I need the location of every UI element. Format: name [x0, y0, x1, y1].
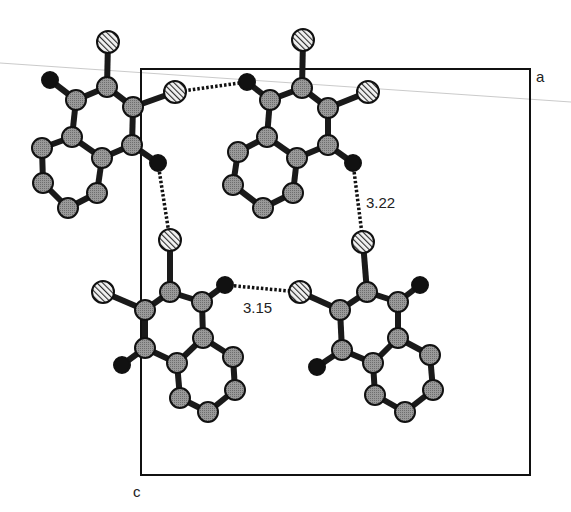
mol-bottom-right-hydrogen-atom	[309, 359, 325, 375]
mol-top-left-carbon-atom	[33, 173, 53, 193]
mol-bottom-left-carbon-atom	[223, 347, 243, 367]
mol-bottom-right-carbon-atom	[395, 402, 415, 422]
mol-top-left-carbon-atom	[62, 127, 82, 147]
axis-label-c: c	[133, 483, 141, 500]
mol-bottom-right-carbon-atom	[388, 292, 408, 312]
axis-label-a: a	[536, 68, 545, 85]
mol-top-right-carbon-atom	[287, 148, 307, 168]
mol-bottom-right-carbon-atom	[363, 353, 383, 373]
mol-bottom-left-hydrogen-atom	[114, 357, 130, 373]
contact-label-3-15: 3.15	[243, 299, 272, 316]
mol-top-left-hydrogen-atom	[150, 155, 166, 171]
mol-top-left-chlorine-atom	[164, 81, 186, 103]
mol-top-right-hydrogen-atom	[239, 74, 255, 90]
mol-bottom-left-carbon-atom	[225, 380, 245, 400]
mol-top-right-carbon-atom	[318, 135, 338, 155]
mol-top-left-carbon-atom	[87, 183, 107, 203]
mol-bottom-left-carbon-atom	[193, 328, 213, 348]
mol-bottom-right-chlorine-atom	[289, 281, 311, 303]
mol-top-right-carbon-atom	[283, 183, 303, 203]
mol-bottom-left-chlorine-atom	[92, 281, 114, 303]
mol-top-left-carbon-atom	[97, 77, 117, 97]
mol-bottom-left-carbon-atom	[135, 300, 155, 320]
mol-bottom-left-carbon-atom	[167, 353, 187, 373]
atoms-layer	[32, 29, 443, 422]
mol-bottom-left-carbon-atom	[198, 402, 218, 422]
mol-top-left-carbon-atom	[92, 148, 112, 168]
mol-top-left-carbon-atom	[122, 135, 142, 155]
mol-top-left-chlorine-atom	[97, 31, 119, 53]
mol-bottom-right-chlorine-atom	[352, 231, 374, 253]
mol-bottom-left-carbon-atom	[170, 388, 190, 408]
mol-bottom-right-carbon-atom	[365, 385, 385, 405]
mol-bottom-left-carbon-atom	[135, 338, 155, 358]
mol-bottom-right-carbon-atom	[388, 328, 408, 348]
mol-bottom-right-carbon-atom	[330, 300, 350, 320]
mol-bottom-right-hydrogen-atom	[412, 277, 428, 293]
mol-bottom-left-hydrogen-atom	[217, 277, 233, 293]
crystal-packing-diagram: a c 3.22 3.15	[0, 0, 571, 512]
mol-top-right-carbon-atom	[228, 142, 248, 162]
mol-bottom-right-carbon-atom	[420, 345, 440, 365]
mol-bottom-left-carbon-atom	[192, 292, 212, 312]
mol-top-right-carbon-atom	[292, 78, 312, 98]
mol-top-right-carbon-atom	[257, 127, 277, 147]
mol-top-right-chlorine-atom	[357, 81, 379, 103]
mol-bottom-left-carbon-atom	[160, 282, 180, 302]
mol-bottom-left-chlorine-atom	[159, 229, 181, 251]
mol-top-left-carbon-atom	[58, 198, 78, 218]
mol-top-right-carbon-atom	[253, 198, 273, 218]
mol-top-left-carbon-atom	[123, 97, 143, 117]
mol-top-right-carbon-atom	[260, 90, 280, 110]
contact-label-3-22: 3.22	[366, 194, 395, 211]
mol-bottom-right-carbon-atom	[332, 340, 352, 360]
mol-bottom-right-carbon-atom	[423, 380, 443, 400]
mol-bottom-right-carbon-atom	[357, 282, 377, 302]
mol-top-right-chlorine-atom	[292, 29, 314, 51]
mol-top-left-carbon-atom	[66, 90, 86, 110]
mol-top-right-hydrogen-atom	[345, 155, 361, 171]
mol-top-left-hydrogen-atom	[42, 72, 58, 88]
mol-top-right-carbon-atom	[318, 98, 338, 118]
mol-top-right-carbon-atom	[223, 175, 243, 195]
mol-top-left-carbon-atom	[32, 138, 52, 158]
